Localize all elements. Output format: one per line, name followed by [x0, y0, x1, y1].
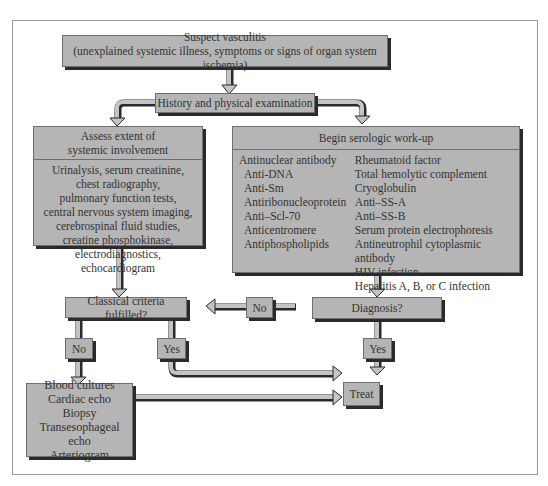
assess-item: Urinalysis, serum creatinine, [38, 163, 198, 177]
serologic-col-2: Rheumatoid factor Total hemolytic comple… [355, 153, 513, 293]
label-yes-diagnosis: Yes [363, 338, 392, 359]
serologic-item: Anti–SS-B [355, 209, 513, 223]
serologic-item: Antiribonucleoprotein [239, 195, 355, 209]
further-item: Transesophageal echo [27, 420, 132, 448]
node-suspect-vasculitis: Suspect vasculitis (unexplained systemic… [62, 35, 388, 67]
node-further-workup: Blood cultures Cardiac echo Biopsy Trans… [26, 383, 133, 457]
no-label: No [252, 301, 266, 315]
assess-body: Urinalysis, serum creatinine, chest radi… [34, 160, 202, 278]
assess-header-line-2: systemic involvement [38, 143, 198, 157]
serologic-header: Begin serologic work-up [233, 127, 519, 150]
assess-item: cerebrospinal fluid studies, [38, 219, 198, 233]
history-label: History and physical examination [158, 96, 313, 110]
label-no-classical: No [65, 338, 93, 359]
classical-label: Classical criteria fulfilled? [66, 294, 186, 322]
treat-label: Treat [350, 387, 374, 401]
serologic-item: Anticentromere [239, 223, 355, 237]
serologic-item: Antineutrophil cytoplasmic antibody [355, 237, 513, 265]
further-item: Biopsy [62, 406, 96, 420]
serologic-item: Hepatitis A, B, or C infection [355, 279, 513, 293]
node-history-physical: History and physical examination [155, 93, 315, 113]
node-serologic-workup: Begin serologic work-up Antinuclear anti… [232, 126, 520, 273]
further-item: Arteriogram [50, 448, 109, 462]
yes-label: Yes [369, 342, 386, 356]
serologic-columns: Antinuclear antibody Anti-DNA Anti-Sm An… [233, 150, 519, 295]
node-treat: Treat [343, 382, 380, 406]
serologic-item: Rheumatoid factor [355, 153, 513, 167]
assess-item: central nervous system imaging, [38, 205, 198, 219]
further-item: Cardiac echo [48, 392, 111, 406]
serologic-item: Total hemolytic complement [355, 167, 513, 181]
label-no-diagnosis: No [246, 297, 273, 318]
no-label: No [72, 342, 86, 356]
serologic-item: Serum protein electrophoresis [355, 223, 513, 237]
serologic-col-1: Antinuclear antibody Anti-DNA Anti-Sm An… [239, 153, 355, 293]
assess-item: electrodiagnostics, echocardiogram [38, 247, 198, 275]
label-yes-classical: Yes [157, 338, 186, 359]
serologic-item: Anti–SS-A [355, 195, 513, 209]
serologic-item: Antiphospholipids [239, 237, 355, 251]
assess-item: creatine phosphokinase, [38, 233, 198, 247]
serologic-item: Antinuclear antibody [239, 153, 355, 167]
assess-item: chest radiography, [38, 177, 198, 191]
serologic-item: HIV infection [355, 265, 513, 279]
serologic-item: Anti–Scl-70 [239, 209, 355, 223]
serologic-item: Anti-Sm [239, 181, 355, 195]
further-item: Blood cultures [44, 378, 114, 392]
assess-header-line-1: Assess extent of [38, 129, 198, 143]
yes-label: Yes [163, 342, 180, 356]
serologic-item: Anti-DNA [239, 167, 355, 181]
diagnosis-label: Diagnosis? [351, 301, 402, 315]
node-assess-extent: Assess extent of systemic involvement Ur… [33, 126, 203, 246]
node-diagnosis: Diagnosis? [312, 297, 442, 319]
node-classical-criteria: Classical criteria fulfilled? [65, 297, 187, 318]
assess-header: Assess extent of systemic involvement [34, 127, 202, 160]
assess-item: pulmonary function tests, [38, 191, 198, 205]
suspect-subtitle: (unexplained systemic illness, symptoms … [63, 44, 387, 72]
suspect-title: Suspect vasculitis [184, 30, 266, 44]
serologic-item: Cryoglobulin [355, 181, 513, 195]
